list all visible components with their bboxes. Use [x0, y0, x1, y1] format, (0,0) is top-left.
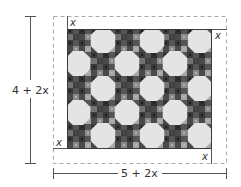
- border-label-bottom: x: [201, 151, 208, 162]
- quilt-diagram: x x x x 4 + 2x 5 + 2x: [0, 0, 241, 187]
- border-label-top: x: [69, 17, 76, 28]
- height-label: 4 + 2x: [12, 84, 49, 97]
- border-label-left: x: [55, 137, 62, 148]
- quilt-image: [66, 28, 213, 149]
- border-label-right: x: [214, 30, 221, 41]
- width-label: 5 + 2x: [121, 167, 158, 180]
